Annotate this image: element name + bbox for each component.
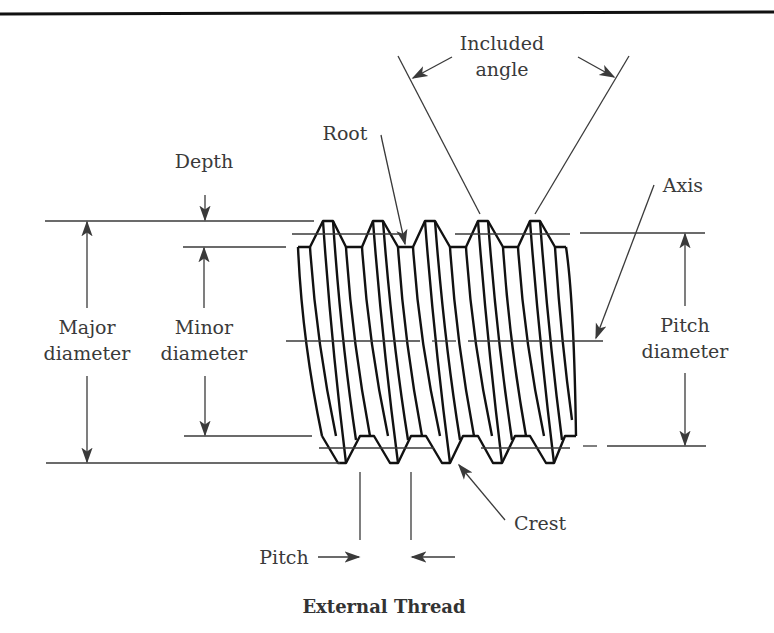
depth-label: Depth [175, 150, 234, 172]
top-rule [0, 12, 774, 14]
pitch-diameter-label: Pitch [660, 314, 709, 336]
figure-title: External Thread [302, 596, 466, 617]
pitch-label: Pitch [259, 546, 308, 568]
included-angle-label-2: angle [475, 58, 528, 80]
pitch-diameter-label-2: diameter [642, 340, 730, 362]
root-label: Root [323, 122, 368, 144]
thread-body [298, 221, 576, 463]
minor-diameter-label: Minor [175, 316, 234, 338]
external-thread-diagram: Included angle Root Depth Axis Major dia… [0, 0, 774, 633]
crest-leader-arrow [459, 465, 505, 520]
crest-label: Crest [514, 512, 567, 534]
included-angle-label: Included [460, 32, 544, 54]
minor-diameter-label-2: diameter [161, 342, 249, 364]
axis-leader-arrow [596, 185, 654, 338]
major-diameter-label-2: diameter [44, 342, 132, 364]
major-diameter-label: Major [58, 316, 116, 338]
axis-label: Axis [662, 174, 703, 196]
included-angle-left-arrow [413, 57, 452, 78]
included-angle-right-arrow [578, 57, 614, 77]
